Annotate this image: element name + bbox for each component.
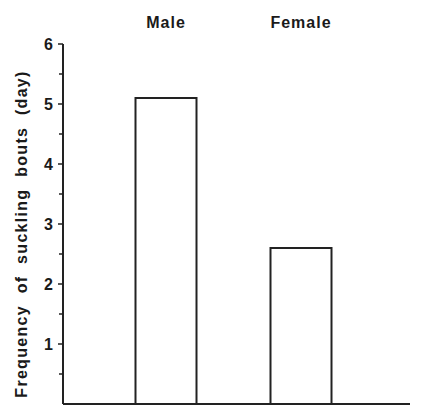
y-tick-label: 3 — [44, 216, 53, 233]
bar-female — [271, 248, 332, 404]
category-label-female: Female — [270, 14, 331, 31]
y-tick-label: 6 — [44, 36, 53, 53]
y-tick-label: 4 — [44, 156, 53, 173]
y-tick-label: 2 — [44, 276, 53, 293]
y-tick-label: 1 — [44, 336, 53, 353]
y-axis-title: Frequency of suckling bouts (day) — [13, 70, 30, 397]
bar-male — [136, 98, 197, 404]
category-label-male: Male — [146, 14, 186, 31]
bar-chart: 123456MaleFemaleFrequency of suckling bo… — [0, 0, 421, 417]
y-tick-label: 5 — [44, 96, 53, 113]
